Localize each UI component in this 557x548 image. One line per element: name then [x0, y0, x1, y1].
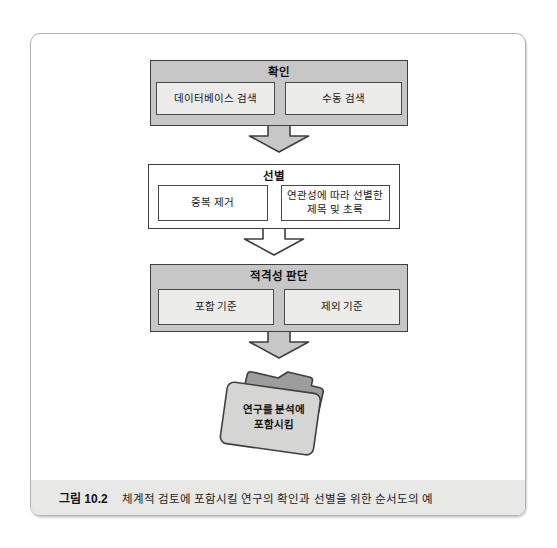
stage-title: 적격성 판단 [151, 267, 407, 286]
stage-box-screening: 선별 중복 제거 연관성에 따라 선별한 제목 및 초록 [148, 164, 400, 229]
figure-frame: 확인 데이터베이스 검색 수동 검색 선별 중복 제거 연관성에 따라 선별한 … [30, 33, 526, 516]
item-box-database-search: 데이터베이스 검색 [156, 82, 275, 115]
folder-label-line1: 연구를 분석에 [212, 402, 336, 417]
stage-title: 선별 [149, 167, 399, 186]
folder-icon: 연구를 분석에 포함시킴 [212, 364, 336, 464]
item-box-exclusion-criteria: 제외 기준 [284, 289, 400, 325]
stage-items-row: 데이터베이스 검색 수동 검색 [151, 82, 407, 115]
down-arrow-icon [243, 226, 305, 256]
stage-items-row: 포함 기준 제외 기준 [151, 289, 407, 325]
item-box-titles-abstracts: 연관성에 따라 선별한 제목 및 초록 [281, 185, 391, 221]
down-arrow-icon [248, 329, 310, 359]
stage-box-eligibility: 적격성 판단 포함 기준 제외 기준 [150, 264, 408, 332]
item-box-inclusion-criteria: 포함 기준 [158, 289, 274, 325]
item-box-duplicate-removal: 중복 제거 [158, 185, 268, 221]
down-arrow-icon [248, 123, 310, 153]
caption-label: 그림 10.2 [59, 489, 108, 506]
stage-items-row: 중복 제거 연관성에 따라 선별한 제목 및 초록 [149, 185, 399, 221]
figure-caption: 그림 10.2 체계적 검토에 포함시킬 연구의 확인과 선별을 위한 순서도의… [31, 480, 525, 515]
item-box-manual-search: 수동 검색 [285, 82, 402, 115]
stage-title: 확인 [151, 63, 407, 82]
folder-label-line2: 포함시킴 [212, 417, 336, 432]
figure-page: 확인 데이터베이스 검색 수동 검색 선별 중복 제거 연관성에 따라 선별한 … [0, 0, 557, 548]
stage-box-identification: 확인 데이터베이스 검색 수동 검색 [150, 60, 408, 126]
caption-text: 체계적 검토에 포함시킬 연구의 확인과 선별을 위한 순서도의 예 [122, 490, 434, 506]
folder-label: 연구를 분석에 포함시킴 [212, 402, 336, 432]
